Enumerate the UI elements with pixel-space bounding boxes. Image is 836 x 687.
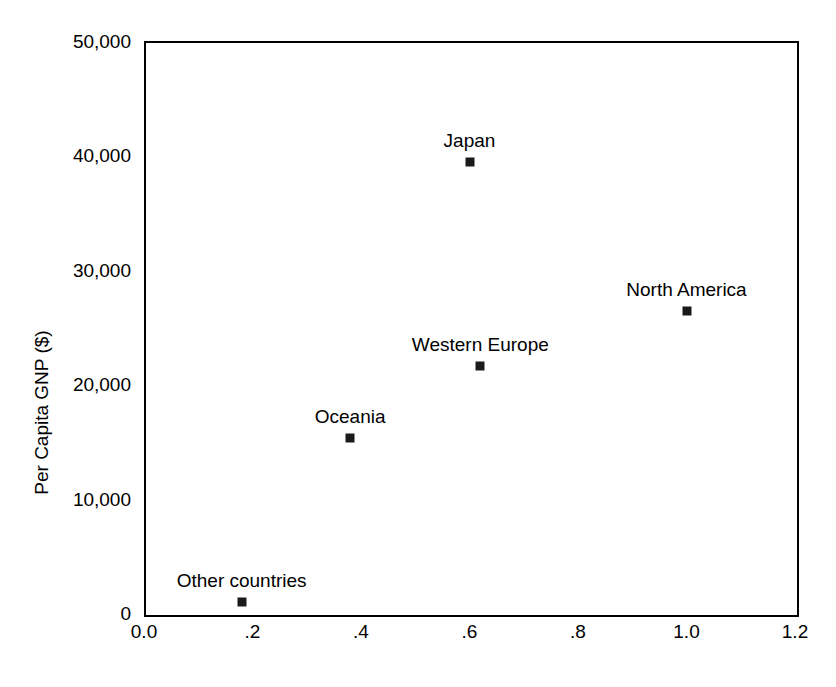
scatter-chart: 010,00020,00030,00040,00050,000 0.0.2.4.… — [0, 0, 836, 687]
x-tick-label: .2 — [245, 622, 261, 641]
x-tick-label: .8 — [570, 622, 586, 641]
x-tick-label: .6 — [462, 622, 478, 641]
data-point — [346, 433, 355, 442]
y-axis-title: Per Capita GNP ($) — [32, 313, 51, 513]
data-point-label: Western Europe — [412, 335, 549, 354]
data-point-label: North America — [626, 280, 746, 299]
x-tick-label: 0.0 — [131, 622, 157, 641]
data-point — [682, 306, 691, 315]
data-point-label: Other countries — [177, 571, 307, 590]
data-point-label: Oceania — [315, 407, 386, 426]
x-tick-label: .4 — [353, 622, 369, 641]
data-point — [476, 361, 485, 370]
x-tick-label: 1.0 — [673, 622, 699, 641]
data-point — [465, 158, 474, 167]
data-point — [237, 597, 246, 606]
data-point-label: Japan — [444, 131, 496, 150]
x-tick-label: 1.2 — [782, 622, 808, 641]
